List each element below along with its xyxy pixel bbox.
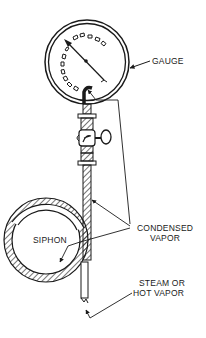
shutoff-valve xyxy=(77,114,111,165)
condensed-label-line2: VAPOR xyxy=(150,233,180,243)
valve-lower-body xyxy=(81,146,93,153)
siphon-loop: SIPHON xyxy=(4,198,88,282)
gauge-needle-tail xyxy=(101,80,107,82)
gauge-label: GAUGE xyxy=(152,56,184,66)
gauge-stem xyxy=(83,104,91,114)
steam-label-line1: STEAM OR xyxy=(139,278,185,288)
siphon-label: SIPHON xyxy=(33,235,67,245)
valve-lower-section xyxy=(81,153,93,161)
gauge xyxy=(45,20,129,104)
gauge-siphon-diagram: GAUGE SIPHON CONDENSED VAPOR STEAM xyxy=(0,0,206,338)
steam-label-line2: HOT VAPOR xyxy=(133,288,184,298)
bourdon-tube xyxy=(84,88,92,105)
inlet-pipe xyxy=(81,262,88,298)
valve-top-collar xyxy=(78,114,96,118)
steam-leader xyxy=(86,293,132,318)
valve-center-body xyxy=(79,130,95,146)
condensed-leader-pipe xyxy=(92,200,130,226)
gauge-leader xyxy=(130,61,150,68)
condensed-leader-gauge xyxy=(88,90,130,224)
valve-handle xyxy=(101,130,111,144)
condensed-label-line1: CONDENSED xyxy=(137,223,193,233)
valve-bottom-collar xyxy=(78,161,96,165)
inlet-pipe-end xyxy=(81,298,88,303)
gauge-pivot xyxy=(84,59,88,63)
valve-upper-body xyxy=(81,118,93,130)
